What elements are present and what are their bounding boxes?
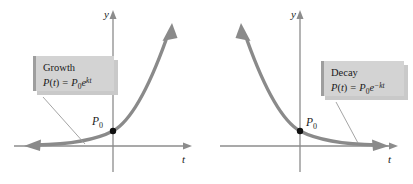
diagram-canvas: y t P0 Growth P(t)=P0ekt (0, 0, 413, 184)
growth-y-axis-label: y (103, 8, 109, 20)
growth-label-box: Growth P(t)=P0ekt (33, 56, 118, 95)
decay-y-axis-label: y (290, 8, 296, 20)
decay-box-title: Decay (331, 67, 359, 78)
growth-leader-line (43, 97, 85, 144)
panel-growth: y t P0 Growth P(t)=P0ekt (14, 8, 192, 172)
exponential-growth-decay-figure: y t P0 Growth P(t)=P0ekt (0, 0, 413, 184)
decay-origin-label: P0 (305, 116, 317, 131)
decay-t-axis-label: t (388, 153, 392, 165)
growth-box-title: Growth (43, 62, 76, 73)
decay-y-axis (297, 10, 304, 172)
decay-origin-point (297, 128, 303, 134)
decay-label-box: Decay P(t)=P0e−kt (321, 61, 408, 100)
decay-leader-line (336, 102, 358, 143)
growth-origin-point (110, 128, 116, 134)
growth-origin-label: P0 (91, 115, 103, 130)
growth-t-axis-label: t (182, 153, 186, 165)
panel-decay: y t P0 Decay P(t)=P0e−kt (220, 8, 408, 172)
